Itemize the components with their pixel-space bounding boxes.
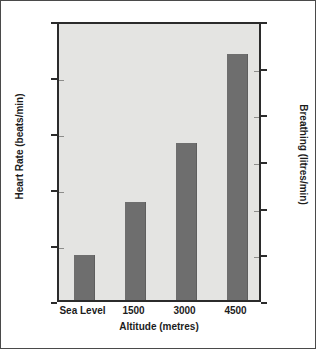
y-axis-left-title: Heart Rate (beats/min): [14, 67, 25, 227]
y-axis-right: 30405060708090: [57, 22, 261, 302]
y-axis-right-tick: [261, 69, 267, 71]
y-axis-right-title: Breathing (litres/min): [298, 75, 309, 235]
chart-figure: 120130140150160170 30405060708090 Sea Le…: [0, 0, 316, 349]
x-axis-title: Altitude (metres): [57, 321, 261, 332]
x-axis-tick-label: Sea Level: [57, 304, 108, 318]
y-axis-right-tick: [261, 209, 267, 211]
x-axis-tick-label: 1500: [108, 304, 159, 318]
x-axis-tick-label: 4500: [210, 304, 261, 318]
y-axis-right-tick: [261, 115, 267, 117]
y-axis-right-tick: [261, 162, 267, 164]
y-axis-right-tick: [261, 255, 267, 257]
x-axis-tick-label: 3000: [159, 304, 210, 318]
y-axis-right-tick: [261, 22, 267, 24]
x-axis-tick-labels: Sea Level150030004500: [57, 304, 261, 320]
y-axis-right-tick: [261, 302, 267, 304]
